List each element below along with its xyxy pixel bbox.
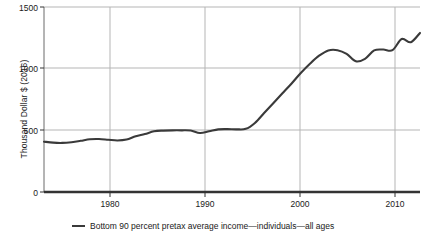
- legend-line-swatch: [72, 225, 85, 227]
- x-tick-label: 1980: [101, 199, 120, 209]
- chart-legend: Bottom 90 percent pretax average income—…: [72, 221, 334, 231]
- data-line-bottom-90-percent: [44, 33, 420, 143]
- chart-figure: Thousand Dollar $ (2016) 1500 1000 500 0: [0, 0, 428, 243]
- x-tick-label: 2000: [291, 199, 310, 209]
- y-axis-ticks: [40, 7, 44, 192]
- x-tick-label: 2010: [386, 199, 405, 209]
- grid-lines: [44, 7, 420, 192]
- legend-label: Bottom 90 percent pretax average income—…: [90, 221, 334, 231]
- x-tick-label: 1990: [196, 199, 215, 209]
- axis-spines: [44, 7, 420, 192]
